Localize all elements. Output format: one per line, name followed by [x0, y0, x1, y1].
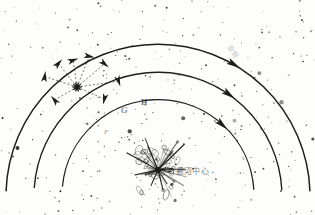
starfield	[1, 0, 315, 215]
arm-node-marker	[49, 94, 60, 106]
arm-node-marker	[41, 71, 48, 83]
arm-node-marker	[100, 93, 108, 105]
burst-cloud	[162, 189, 170, 201]
burst-core	[155, 167, 161, 173]
hub-spoke	[77, 56, 89, 87]
burst-cloud	[168, 185, 173, 190]
arm-node-marker	[99, 58, 111, 69]
burst-cloud	[174, 156, 181, 166]
arm-node-marker	[114, 75, 123, 87]
hub-spoke	[77, 81, 119, 87]
hub-core	[74, 84, 79, 89]
diagram-canvas	[0, 0, 315, 215]
label-point-f: F	[104, 129, 108, 136]
label-point-g: G	[121, 106, 128, 115]
label-galactic-center: 銀河中心	[176, 168, 209, 176]
galaxy-diagram: G H F 銀河中心 旋臂	[0, 0, 315, 215]
arm-node-marker	[53, 57, 65, 69]
burst-ray	[158, 142, 178, 170]
label-point-h: H	[141, 99, 147, 107]
hub-spoke	[45, 77, 77, 88]
arm-node-marker	[67, 56, 79, 65]
hub-spoke	[77, 64, 105, 87]
hub-spoke	[77, 87, 104, 99]
